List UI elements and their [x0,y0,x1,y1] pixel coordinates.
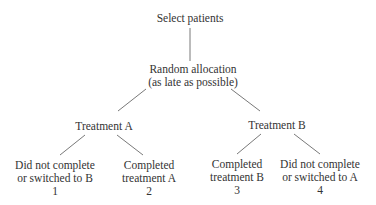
outcome-1-node: Did not complete or switched to B 1 [15,159,95,198]
connector-randomization-to-treatment-b [231,89,260,111]
connector-treatment-a-to-outcome-2 [117,135,143,155]
connector-randomization-to-treatment-a [118,89,146,111]
treatment-b-node: Treatment B [248,119,305,132]
outcome-2-node: Completed treatment A 2 [122,159,176,198]
outcome-4-line2: or switched to A [280,171,360,184]
outcome-3-node: Completed treatment B 3 [210,158,264,197]
treatment-b-label: Treatment B [248,119,305,132]
outcome-2-line1: Completed [122,159,176,172]
treatment-a-label: Treatment A [75,120,132,133]
outcome-1-number: 1 [15,185,95,198]
outcome-4-line1: Did not complete [280,158,360,171]
outcome-3-line1: Completed [210,158,264,171]
connector-treatment-b-to-outcome-4 [294,134,320,154]
random-allocation-label: Random allocation [148,63,238,76]
outcome-1-line2: or switched to B [15,172,95,185]
connector-treatment-b-to-outcome-3 [237,134,261,154]
outcome-3-number: 3 [210,184,264,197]
outcome-2-number: 2 [122,185,176,198]
outcome-4-number: 4 [280,184,360,197]
connector-treatment-a-to-outcome-1 [60,135,85,155]
treatment-a-node: Treatment A [75,120,132,133]
outcome-2-line2: treatment A [122,172,176,185]
random-allocation-node: Random allocation (as late as possible) [148,63,238,89]
outcome-4-node: Did not complete or switched to A 4 [280,158,360,197]
random-allocation-note: (as late as possible) [148,76,238,89]
outcome-1-line1: Did not complete [15,159,95,172]
select-patients-node: Select patients [157,12,224,25]
outcome-3-line2: treatment B [210,171,264,184]
select-patients-label: Select patients [157,12,224,25]
